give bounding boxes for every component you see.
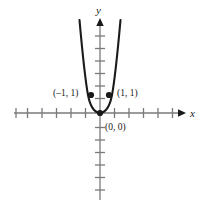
x-axis-label: x [189, 107, 195, 119]
label-origin-point: (0, 0) [105, 122, 126, 133]
point-marker-left [88, 92, 94, 98]
label-left-point: (–1, 1) [53, 88, 78, 99]
label-right-point: (1, 1) [117, 88, 138, 99]
point-marker-right [106, 92, 112, 98]
graph-figure: (–1, 1) (1, 1) (0, 0) y x [0, 0, 203, 211]
y-axis-label: y [95, 4, 101, 16]
point-marker-origin [97, 110, 103, 116]
coordinate-plane-plot: (–1, 1) (1, 1) (0, 0) y x [0, 0, 203, 211]
x-axis-arrowhead [178, 109, 186, 117]
y-axis-arrowhead [96, 18, 103, 26]
